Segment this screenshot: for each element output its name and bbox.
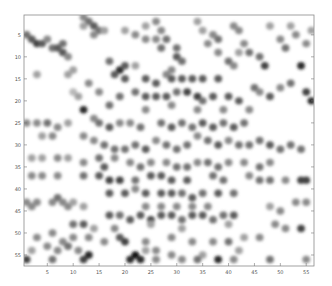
heatmap-cell xyxy=(157,172,165,179)
y-tick-label: 55 xyxy=(15,252,21,258)
heatmap-cell xyxy=(157,119,165,126)
x-tick-label: 25 xyxy=(148,269,154,275)
heatmap-cell xyxy=(121,190,129,197)
heatmap-cell xyxy=(276,146,284,153)
heatmap-cell xyxy=(282,225,290,232)
heatmap-cell xyxy=(168,190,176,197)
heatmap-cell xyxy=(168,124,176,131)
heatmap-cell xyxy=(116,212,124,219)
heatmap-cell xyxy=(287,80,295,87)
heatmap-cell xyxy=(157,44,165,51)
heatmap-cell xyxy=(100,27,108,34)
heatmap-cell xyxy=(142,190,150,197)
heatmap-cell xyxy=(69,220,77,227)
heatmap-cell xyxy=(209,216,217,223)
heatmap-cell xyxy=(38,132,46,139)
heatmap-cell xyxy=(235,247,243,254)
heatmap-cell xyxy=(256,163,264,170)
heatmap-cell xyxy=(157,27,165,34)
heatmap-cell xyxy=(85,251,93,258)
x-tick-label: 30 xyxy=(174,269,180,275)
heatmap-cell xyxy=(194,106,202,113)
heatmap-cell xyxy=(90,137,98,144)
heatmap-cell xyxy=(142,75,150,82)
heatmap-cell xyxy=(173,203,181,210)
heatmap-cell xyxy=(126,119,134,126)
heatmap-cell xyxy=(131,185,139,192)
heatmap-cell xyxy=(168,176,176,183)
x-tick-label: 50 xyxy=(277,269,283,275)
heatmap-cell xyxy=(302,198,310,205)
heatmap-cell xyxy=(152,247,160,254)
heatmap-cell xyxy=(168,102,176,109)
heatmap-cell xyxy=(80,172,88,179)
heatmap-cell xyxy=(80,220,88,227)
heatmap-cell xyxy=(292,31,300,38)
heatmap-cell xyxy=(266,22,274,29)
heatmap-cell xyxy=(276,35,284,42)
heatmap-cell xyxy=(230,190,238,197)
heatmap-cell xyxy=(183,141,191,148)
heatmap-cell xyxy=(173,146,181,153)
heatmap-cell xyxy=(157,190,165,197)
y-tick-label: 35 xyxy=(15,164,21,170)
heatmap-cell xyxy=(282,44,290,51)
heatmap-cell xyxy=(178,190,186,197)
heatmap-cell xyxy=(188,124,196,131)
heatmap-cell xyxy=(188,203,196,210)
x-tick-label: 20 xyxy=(122,269,128,275)
heatmap-chart: 510152025303540455055 510152025303540455… xyxy=(0,0,332,286)
heatmap-cell xyxy=(240,234,248,241)
heatmap-cell xyxy=(204,137,212,144)
heatmap-cell xyxy=(106,57,114,64)
heatmap-cell xyxy=(214,49,222,56)
heatmap-cell xyxy=(54,247,62,254)
heatmap-cell xyxy=(214,256,222,263)
heatmap-cell xyxy=(28,154,36,161)
y-tick-label: 5 xyxy=(18,32,21,38)
heatmap-cell xyxy=(90,225,98,232)
heatmap-cell xyxy=(256,234,264,241)
heatmap-cell xyxy=(188,238,196,245)
heatmap-cell xyxy=(219,119,227,126)
heatmap-cell xyxy=(106,176,114,183)
heatmap-cell xyxy=(131,62,139,69)
heatmap-cell xyxy=(111,225,119,232)
heatmap-cell xyxy=(126,159,134,166)
heatmap-cell xyxy=(235,27,243,34)
heatmap-cell xyxy=(106,212,114,219)
heatmap-cell xyxy=(64,154,72,161)
heatmap-cell xyxy=(183,176,191,183)
heatmap-cell xyxy=(100,163,108,170)
heatmap-cell xyxy=(106,124,114,131)
heatmap-cell xyxy=(116,93,124,100)
heatmap-cell xyxy=(219,176,227,183)
heatmap-cell xyxy=(287,22,295,29)
heatmap-cell xyxy=(199,119,207,126)
heatmap-cell xyxy=(74,247,82,254)
heatmap-cell xyxy=(147,159,155,166)
heatmap-cell xyxy=(43,119,51,126)
heatmap-cell xyxy=(225,93,233,100)
heatmap-cell xyxy=(80,106,88,113)
heatmap-cell xyxy=(152,93,160,100)
heatmap-cell xyxy=(142,35,150,42)
heatmap-cell xyxy=(33,234,41,241)
heatmap-cell xyxy=(95,88,103,95)
heatmap-cell xyxy=(245,49,253,56)
heatmap-cell xyxy=(152,256,160,263)
heatmap-cell xyxy=(106,102,114,109)
heatmap-cell xyxy=(137,256,145,263)
heatmap-cell xyxy=(95,154,103,161)
heatmap-cell xyxy=(235,49,243,56)
heatmap-cell xyxy=(276,84,284,91)
heatmap-cell xyxy=(194,132,202,139)
heatmap-cell xyxy=(28,172,36,179)
heatmap-cell xyxy=(54,172,62,179)
heatmap-cell xyxy=(219,106,227,113)
heatmap-cell xyxy=(142,146,150,153)
heatmap-cell xyxy=(121,27,129,34)
heatmap-cell xyxy=(33,71,41,78)
heatmap-cell xyxy=(85,80,93,87)
heatmap-cell xyxy=(230,212,238,219)
